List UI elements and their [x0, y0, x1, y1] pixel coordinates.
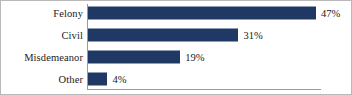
category-label-civil: Civil — [61, 29, 83, 40]
bar-row: Other 4% — [1, 68, 352, 89]
bar-civil — [88, 28, 238, 41]
bar-misdemeanor — [88, 50, 180, 63]
category-label-other: Other — [59, 73, 83, 84]
x-axis-line — [87, 89, 321, 90]
bar-other — [88, 72, 107, 85]
bar-track-other — [88, 72, 107, 85]
bar-row: Misdemeanor 19% — [1, 46, 352, 67]
value-label-civil: 31% — [238, 29, 262, 40]
category-label-misdemeanor: Misdemeanor — [24, 51, 83, 62]
category-label-felony: Felony — [53, 7, 83, 18]
bar-track-misdemeanor — [88, 50, 180, 63]
bar-row: Civil 31% — [1, 24, 352, 45]
bar-chart: Felony 47% Civil 31% Misdemeanor 19% Oth… — [0, 0, 352, 95]
value-label-other: 4% — [107, 73, 126, 84]
plot-area: Felony 47% Civil 31% Misdemeanor 19% Oth… — [1, 1, 352, 95]
bar-track-felony — [88, 6, 316, 19]
bar-felony — [88, 6, 316, 19]
value-label-misdemeanor: 19% — [180, 51, 204, 62]
bar-row: Felony 47% — [1, 2, 352, 23]
value-label-felony: 47% — [316, 7, 340, 18]
bar-track-civil — [88, 28, 238, 41]
